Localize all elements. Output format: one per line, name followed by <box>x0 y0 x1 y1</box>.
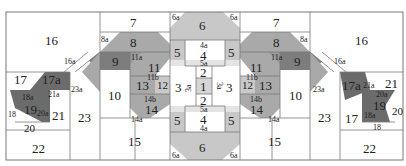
center-label-3-left: 3 <box>175 80 182 95</box>
center-label-5-tr: 5 <box>228 45 235 60</box>
right-label-14: 14 <box>250 102 264 117</box>
right-label-18: 18 <box>373 123 381 132</box>
left-label-12: 12 <box>157 79 168 91</box>
right-label-14a: 14a <box>268 115 280 124</box>
center-label-3a-right: 3a <box>215 82 224 90</box>
center-label-6a-tr: 6a <box>230 13 238 22</box>
center-label-2-top: 2 <box>200 65 207 80</box>
right-label-9: 9 <box>294 54 301 69</box>
center-label-3a-left: 3a <box>184 84 193 92</box>
center-label-1: 1 <box>200 79 207 94</box>
left-label-16: 16 <box>45 33 59 48</box>
left-label-10: 10 <box>108 88 121 103</box>
left-label-16a: 16a <box>64 57 76 66</box>
left-label-18: 18 <box>8 110 16 119</box>
right-label-16: 16 <box>355 33 369 48</box>
center-label-6-bottom: 6 <box>199 140 206 155</box>
left-label-21a: 21a <box>48 90 60 99</box>
right-label-8a: 8a <box>300 35 308 44</box>
right-label-21: 21 <box>385 76 398 91</box>
left-label-9: 9 <box>112 54 119 69</box>
left-label-18a: 18a <box>22 93 34 102</box>
left-label-13: 13 <box>136 78 149 93</box>
center-label-5-bl: 5 <box>174 113 181 128</box>
left-label-23a: 23a <box>71 85 83 94</box>
left-label-8a: 8a <box>101 35 109 44</box>
right-label-17: 17 <box>345 111 359 126</box>
right-label-16a: 16a <box>334 57 346 66</box>
left-label-15: 15 <box>128 134 141 149</box>
right-label-21a: 21a <box>363 81 375 90</box>
right-label-18a: 18a <box>364 111 376 120</box>
left-label-17a: 17a <box>42 72 61 87</box>
right-label-12: 12 <box>242 79 253 91</box>
right-label-13: 13 <box>259 78 272 93</box>
left-label-22: 22 <box>32 141 45 156</box>
right-label-7: 7 <box>273 15 280 30</box>
right-label-15: 15 <box>268 134 281 149</box>
left-label-14: 14 <box>145 102 159 117</box>
right-label-20: 20 <box>392 105 404 117</box>
left-label-11a: 11a <box>131 53 143 62</box>
right-label-17a: 17a <box>342 78 361 93</box>
center-label-3-right: 3 <box>226 80 233 95</box>
quilt-piecing-diagram: 16 16a 17 17a 18a 21a 19 20a 18 21 20 22… <box>0 0 406 166</box>
left-label-20: 20 <box>24 122 36 134</box>
center-label-6a-bl: 6a <box>172 151 180 160</box>
center-label-5-tl: 5 <box>174 45 181 60</box>
left-label-8: 8 <box>130 35 137 50</box>
right-label-10: 10 <box>289 88 302 103</box>
right-label-23a: 23a <box>313 85 325 94</box>
diagram-canvas: 16 16a 17 17a 18a 21a 19 20a 18 21 20 22… <box>0 0 406 166</box>
center-label-4a-bottom: 4a <box>200 124 208 133</box>
center-label-5-br: 5 <box>228 113 235 128</box>
right-label-23: 23 <box>318 110 331 125</box>
right-label-8: 8 <box>273 35 280 50</box>
left-label-19: 19 <box>24 102 37 117</box>
left-label-14a: 14a <box>131 115 143 124</box>
left-label-23: 23 <box>78 110 91 125</box>
right-label-11a: 11a <box>271 53 283 62</box>
center-label-6a-tl: 6a <box>172 13 180 22</box>
right-label-22: 22 <box>363 141 376 156</box>
center-label-6a-br: 6a <box>230 151 238 160</box>
center-label-6-top: 6 <box>199 18 206 33</box>
left-label-17: 17 <box>14 72 28 87</box>
left-label-21: 21 <box>52 108 65 123</box>
left-label-20a: 20a <box>37 109 49 118</box>
left-label-7: 7 <box>130 15 137 30</box>
